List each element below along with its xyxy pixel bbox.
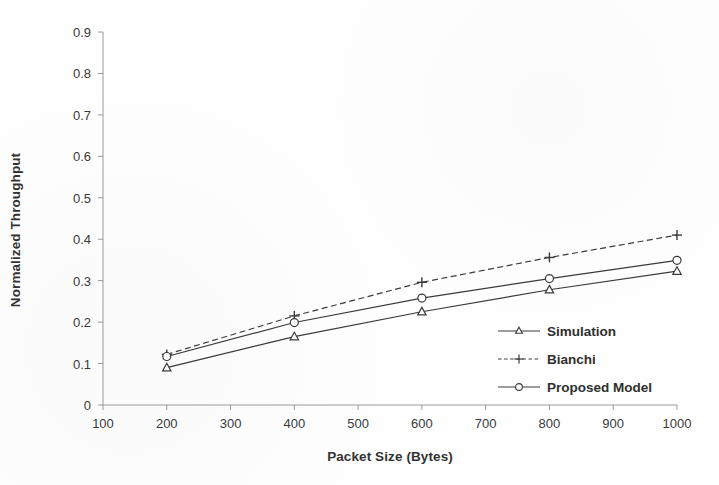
y-tick-label: 0.4 xyxy=(45,232,91,247)
y-tick-label: 0 xyxy=(45,398,91,413)
scan-tint-overlay xyxy=(0,0,719,485)
legend-label-bianchi: Bianchi xyxy=(547,352,596,367)
x-tick-label: 300 xyxy=(201,416,261,431)
legend-swatch-simulation xyxy=(497,324,541,338)
y-tick-label: 0.9 xyxy=(45,25,91,40)
x-tick-label: 700 xyxy=(456,416,516,431)
x-tick-label: 500 xyxy=(328,416,388,431)
x-tick-label: 600 xyxy=(392,416,452,431)
legend-label-simulation: Simulation xyxy=(547,324,616,339)
x-tick-label: 1000 xyxy=(647,416,707,431)
y-tick-label: 0.6 xyxy=(45,149,91,164)
y-tick-label: 0.8 xyxy=(45,66,91,81)
legend-swatch-proposed-model xyxy=(497,380,541,394)
y-tick-label: 0.3 xyxy=(45,273,91,288)
legend-item-simulation: Simulation xyxy=(497,317,683,345)
legend-item-bianchi: Bianchi xyxy=(497,345,683,373)
x-tick-label: 100 xyxy=(73,416,133,431)
x-tick-label: 800 xyxy=(519,416,579,431)
x-axis-title: Packet Size (Bytes) xyxy=(103,449,677,464)
y-tick-label: 0.7 xyxy=(45,107,91,122)
legend-label-proposed-model: Proposed Model xyxy=(547,380,652,395)
x-tick-label: 200 xyxy=(137,416,197,431)
legend-swatch-bianchi xyxy=(497,352,541,366)
y-tick-label: 0.1 xyxy=(45,356,91,371)
chart-legend: Simulation Bianchi Proposed Model xyxy=(497,317,683,401)
x-tick-label: 900 xyxy=(583,416,643,431)
plot-canvas xyxy=(0,0,719,485)
x-tick-label: 400 xyxy=(264,416,324,431)
y-axis-title: Normalized Throughput xyxy=(8,120,30,340)
y-tick-label: 0.5 xyxy=(45,190,91,205)
chart-figure: 00.10.20.30.40.50.60.70.80.9 10020030040… xyxy=(0,0,719,485)
y-tick-label: 0.2 xyxy=(45,315,91,330)
legend-item-proposed-model: Proposed Model xyxy=(497,373,683,401)
